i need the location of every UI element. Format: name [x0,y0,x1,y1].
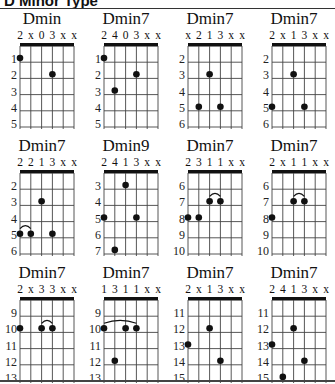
finger-dot [112,357,119,364]
finger-dot [269,103,276,110]
fret-number: 6 [95,228,101,242]
fret-number: 3 [95,179,101,193]
fret-number: 6 [263,179,269,193]
fretboard: 1112131415 [252,264,335,384]
fret-number: 9 [95,306,101,320]
finger-dot [122,325,129,332]
fret-number: 2 [179,52,185,66]
finger-dot [217,198,224,205]
fret-number: 11 [5,339,17,353]
finger-dot [17,230,24,237]
finger-dot [196,103,203,110]
fretboard: 12345 [0,10,84,134]
barre-arc [294,193,305,196]
fret-number: 10 [173,244,185,258]
finger-dot [301,198,308,205]
fret-number: 9 [263,228,269,242]
finger-dot [49,71,56,78]
fretboard: 910111213 [84,264,168,384]
fret-number: 9 [11,306,17,320]
finger-dot [101,214,108,221]
fret-number: 13 [173,339,185,353]
barre-arc [20,226,31,229]
fretboard: 1112131415 [168,264,252,384]
fret-number: 7 [179,195,185,209]
finger-dot [122,182,129,189]
finger-dot [301,103,308,110]
finger-dot [49,230,56,237]
chord-diagram: Dmin72213xx23456 [0,137,84,261]
fret-number: 9 [179,228,185,242]
barre-arc [104,320,136,323]
fret-number: 5 [263,101,269,115]
finger-dot [112,87,119,94]
finger-dot [38,198,45,205]
fret-number: 3 [263,68,269,82]
finger-dot [133,71,140,78]
fret-number: 4 [263,85,269,99]
barre-arc [42,320,53,323]
fret-number: 5 [95,117,101,131]
fret-number: 5 [11,228,17,242]
chord-diagram: Dmin72x11xx678910 [252,137,335,261]
finger-dot [196,214,203,221]
chord-diagram: Dmin92413xx34567 [84,137,168,261]
finger-dot [185,341,192,348]
finger-dot [206,71,213,78]
fret-number: 12 [5,355,17,369]
finger-dot [133,214,140,221]
fret-number: 5 [11,117,17,131]
fret-number: 7 [263,195,269,209]
fret-number: 10 [257,244,269,258]
finger-dot [49,325,56,332]
fret-number: 13 [89,371,101,384]
page-header: D Minor Type [0,0,335,9]
finger-dot [269,214,276,221]
finger-dot [217,103,224,110]
fretboard: 678910 [252,137,335,261]
fret-number: 3 [11,195,17,209]
fret-number: 13 [257,339,269,353]
finger-dot [290,71,297,78]
fret-number: 12 [89,355,101,369]
fretboard: 34567 [84,137,168,261]
finger-dot [17,55,24,62]
finger-dot [112,247,119,254]
fret-number: 14 [257,355,269,369]
chord-diagram: Dmin2x03xx12345 [0,10,84,134]
fret-number: 1 [95,52,101,66]
chord-diagram: Dmin71311xx910111213 [84,264,168,384]
fret-number: 4 [11,212,17,226]
fret-number: 8 [263,212,269,226]
finger-dot [301,357,308,364]
fret-number: 11 [173,306,185,320]
fret-number: 12 [257,322,269,336]
fret-number: 7 [95,244,101,258]
fret-number: 10 [89,322,101,336]
fret-number: 3 [179,68,185,82]
finger-dot [185,214,192,221]
chord-diagram: Dmin72x13xx23456 [252,10,335,134]
finger-dot [269,341,276,348]
finger-dot [290,325,297,332]
finger-dot [217,357,224,364]
finger-dot [206,198,213,205]
fret-number: 2 [11,68,17,82]
fretboard: 910111213 [0,264,84,384]
fret-number: 10 [5,322,17,336]
fret-number: 4 [11,101,17,115]
fret-number: 6 [179,179,185,193]
chord-diagram: Dmin7x213xx23456 [168,10,252,134]
chord-diagram: Dmin72413xx1112131415 [252,264,335,384]
fret-number: 6 [179,117,185,131]
finger-dot [101,325,108,332]
fret-number: 3 [11,85,17,99]
fretboard: 23456 [168,10,252,134]
finger-dot [28,230,35,237]
fret-number: 4 [95,195,101,209]
finger-dot [17,325,24,332]
fret-number: 11 [257,306,269,320]
chord-diagram: Dmin72403xx12345 [84,10,168,134]
fret-number: 2 [95,68,101,82]
fretboard: 23456 [252,10,335,134]
